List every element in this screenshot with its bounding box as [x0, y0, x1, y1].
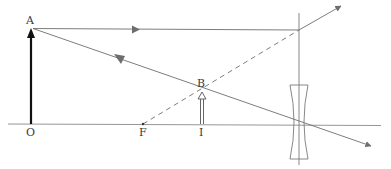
ray-direction-arrow-icon	[114, 54, 125, 64]
focal-point-dot	[142, 123, 144, 125]
ray-diagram: A O F B I	[0, 0, 391, 169]
object-arrowhead-icon	[27, 28, 35, 38]
label-A: A	[26, 15, 34, 26]
ray-direction-arrow-icon	[132, 26, 140, 34]
virtual-ray-dashed	[143, 30, 299, 124]
ray-parallel-incident	[33, 29, 299, 31]
optical-axis	[8, 124, 381, 126]
diagram-canvas	[0, 0, 391, 169]
label-B: B	[197, 78, 205, 89]
image-arrowhead-icon	[198, 92, 206, 99]
ray-parallel-refracted	[299, 6, 341, 30]
label-I: I	[199, 127, 203, 138]
label-F: F	[139, 127, 147, 138]
label-O: O	[26, 127, 35, 138]
